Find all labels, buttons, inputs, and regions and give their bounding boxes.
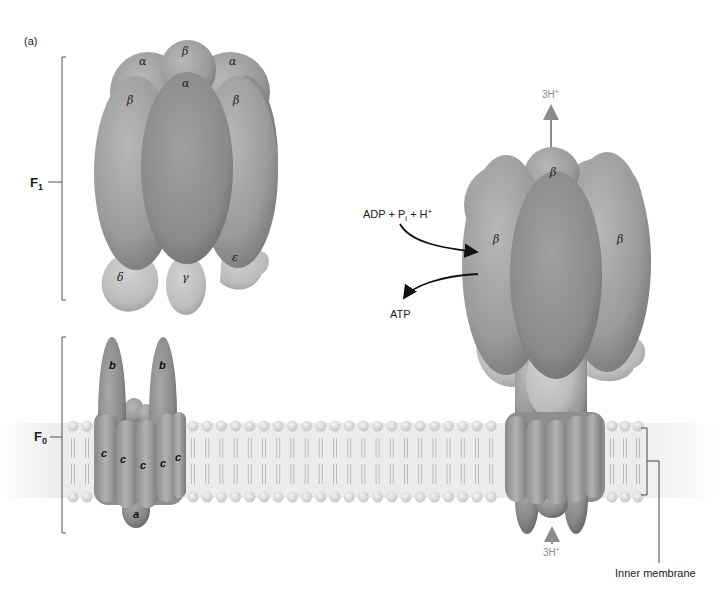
lipid-head bbox=[259, 492, 270, 503]
lipid-head bbox=[82, 492, 93, 503]
lipid-head bbox=[68, 421, 79, 432]
lipid-head bbox=[330, 421, 341, 432]
lipid-head bbox=[244, 421, 255, 432]
lipid-head bbox=[486, 421, 497, 432]
f1-label: F1 bbox=[30, 175, 43, 192]
label-beta: β bbox=[549, 166, 556, 179]
label-alpha: α bbox=[229, 55, 237, 68]
lipid-head bbox=[457, 492, 468, 503]
label-beta: β bbox=[181, 45, 188, 58]
lipid-head bbox=[244, 492, 255, 503]
lipid-head bbox=[486, 492, 497, 503]
label-gamma: γ bbox=[182, 271, 189, 284]
label-c: c bbox=[175, 451, 181, 463]
label-beta: β bbox=[232, 94, 239, 107]
label-alpha: α bbox=[182, 77, 190, 90]
lipid-head bbox=[188, 421, 199, 432]
lipid-head bbox=[188, 492, 199, 503]
lipid-head bbox=[633, 492, 644, 503]
lipid-head bbox=[607, 421, 618, 432]
c-subunit bbox=[506, 416, 528, 502]
f0-complex-right bbox=[505, 412, 605, 534]
atp-synthase-diagram: (a) F1 α β α β α β δ γ ε bbox=[0, 0, 722, 603]
alpha-center-right bbox=[510, 171, 602, 379]
label-a: a bbox=[133, 508, 139, 520]
lipid-head bbox=[315, 421, 326, 432]
lipid-head bbox=[372, 492, 383, 503]
label-c: c bbox=[160, 457, 166, 469]
lipid-head bbox=[415, 421, 426, 432]
inner-membrane-label: Inner membrane bbox=[615, 567, 696, 579]
lipid-head bbox=[259, 421, 270, 432]
lipid-head bbox=[82, 421, 93, 432]
lipid-head bbox=[429, 421, 440, 432]
lipid-head bbox=[287, 421, 298, 432]
lipid-head bbox=[472, 492, 483, 503]
lipid-head bbox=[273, 492, 284, 503]
lipid-head bbox=[216, 421, 227, 432]
lipid-head bbox=[386, 421, 397, 432]
label-alpha: α bbox=[139, 55, 147, 68]
lipid-head bbox=[315, 492, 326, 503]
lipid-head bbox=[429, 492, 440, 503]
lipid-head bbox=[202, 492, 213, 503]
lipid-head bbox=[344, 421, 355, 432]
lipid-head bbox=[68, 492, 79, 503]
lipid-head bbox=[372, 421, 383, 432]
substrate-label: ADP + Pi + H+ bbox=[363, 207, 433, 223]
f1-complex-right bbox=[462, 147, 651, 430]
lipid-head bbox=[344, 492, 355, 503]
lipid-head bbox=[216, 492, 227, 503]
f1-bracket bbox=[48, 57, 66, 300]
panel-label: (a) bbox=[24, 35, 37, 47]
lipid-head bbox=[287, 492, 298, 503]
label-b: b bbox=[159, 359, 166, 371]
lipid-head bbox=[301, 421, 312, 432]
lipid-head bbox=[301, 492, 312, 503]
lipid-head bbox=[401, 492, 412, 503]
lipid-head bbox=[401, 421, 412, 432]
proton-out-label: 3H+ bbox=[542, 88, 559, 100]
label-beta: β bbox=[126, 94, 133, 107]
lipid-head bbox=[330, 492, 341, 503]
label-delta: δ bbox=[117, 271, 124, 284]
c-subunit bbox=[526, 420, 548, 504]
lipid-head bbox=[230, 421, 241, 432]
atp-label: ATP bbox=[390, 308, 411, 320]
lipid-head bbox=[358, 421, 369, 432]
lipid-head bbox=[620, 492, 631, 503]
label-beta: β bbox=[492, 233, 499, 246]
label-b: b bbox=[109, 359, 116, 371]
label-beta: β bbox=[616, 233, 623, 246]
lipid-head bbox=[620, 421, 631, 432]
lipid-head bbox=[273, 421, 284, 432]
c-subunit bbox=[584, 414, 602, 498]
alpha-center bbox=[141, 72, 233, 264]
lipid-head bbox=[633, 421, 644, 432]
label-c: c bbox=[101, 447, 107, 459]
lipid-head bbox=[230, 492, 241, 503]
lipid-head bbox=[415, 492, 426, 503]
lipid-head bbox=[472, 421, 483, 432]
gamma-subunit bbox=[166, 255, 206, 315]
label-epsilon: ε bbox=[232, 251, 238, 264]
lipid-head bbox=[358, 492, 369, 503]
lipid-head bbox=[443, 421, 454, 432]
lipid-head bbox=[607, 492, 618, 503]
lipid-head bbox=[457, 421, 468, 432]
f0-complex-left bbox=[94, 337, 186, 528]
c-subunit bbox=[546, 420, 568, 504]
proton-in-label: 3H+ bbox=[543, 546, 560, 558]
lipid-head bbox=[443, 492, 454, 503]
lipid-head bbox=[202, 421, 213, 432]
lipid-head bbox=[386, 492, 397, 503]
label-c: c bbox=[120, 453, 126, 465]
label-c: c bbox=[140, 459, 146, 471]
